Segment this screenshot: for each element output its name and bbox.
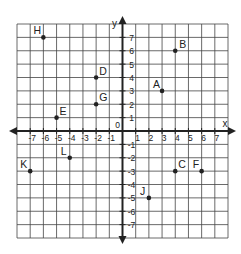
- tick-labels: -7-6-5-4-3-2-11234567-7-6-5-4-3-2-112345…: [28, 18, 227, 230]
- point-d: [94, 75, 99, 80]
- origin-label: 0: [115, 120, 120, 130]
- point-g: [94, 102, 99, 107]
- y-tick-label: -7: [128, 220, 136, 230]
- point-k: [28, 169, 33, 174]
- x-tick-label: 7: [214, 133, 219, 143]
- y-tick-label: 5: [129, 60, 134, 70]
- y-axis-label: y: [112, 18, 117, 29]
- x-tick-label: -7: [28, 133, 36, 143]
- y-tick-label: -2: [128, 153, 136, 163]
- x-tick-label: 6: [201, 133, 206, 143]
- y-tick-label: -6: [128, 207, 136, 217]
- x-tick-label: 3: [162, 133, 167, 143]
- point-l: [67, 155, 72, 160]
- y-tick-label: 1: [129, 113, 134, 123]
- point-h: [41, 35, 46, 40]
- y-axis-arrow-up-icon: [119, 16, 127, 24]
- x-axis-arrow-left-icon: [9, 127, 17, 135]
- x-tick-label: -1: [108, 133, 116, 143]
- point-label: F: [193, 158, 199, 170]
- point-label: J: [140, 185, 145, 197]
- point-label: E: [60, 105, 67, 117]
- point-label: L: [61, 145, 67, 157]
- y-tick-label: 4: [129, 73, 134, 83]
- x-tick-label: 1: [135, 133, 140, 143]
- x-axis-arrow-right-icon: [228, 127, 236, 135]
- y-tick-label: 3: [129, 86, 134, 96]
- point-label: A: [153, 78, 160, 90]
- point-b: [173, 48, 178, 53]
- y-tick-label: 7: [129, 33, 134, 43]
- point-label: G: [99, 91, 107, 103]
- point-label: K: [20, 158, 27, 170]
- x-tick-label: -3: [81, 133, 89, 143]
- y-tick-label: -1: [128, 140, 136, 150]
- y-tick-label: -4: [128, 180, 136, 190]
- x-tick-label: -5: [55, 133, 63, 143]
- x-tick-label: -2: [94, 133, 102, 143]
- point-label: C: [178, 158, 186, 170]
- y-axis-arrow-down-icon: [119, 236, 127, 244]
- coordinate-plane: -7-6-5-4-3-2-11234567-7-6-5-4-3-2-112345…: [0, 0, 241, 254]
- x-tick-label: 2: [149, 133, 154, 143]
- point-label: D: [99, 65, 107, 77]
- y-tick-label: 2: [129, 100, 134, 110]
- y-tick-label: -5: [128, 193, 136, 203]
- x-tick-label: 5: [188, 133, 193, 143]
- x-axis-label: x: [223, 118, 228, 129]
- point-f: [199, 169, 204, 174]
- y-tick-label: 6: [129, 46, 134, 56]
- point-label: B: [179, 38, 186, 50]
- point-c: [173, 169, 178, 174]
- y-tick-label: -3: [128, 167, 136, 177]
- point-j: [147, 196, 152, 201]
- x-tick-label: -4: [68, 133, 76, 143]
- point-e: [54, 115, 59, 120]
- x-tick-label: -6: [42, 133, 50, 143]
- x-tick-label: 4: [175, 133, 180, 143]
- point-a: [160, 89, 165, 94]
- point-label: H: [33, 24, 41, 36]
